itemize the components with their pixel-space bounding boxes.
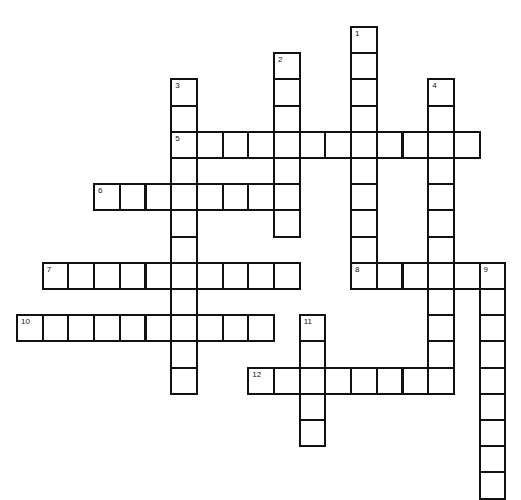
- crossword-cell[interactable]: [93, 314, 121, 342]
- crossword-cell[interactable]: [479, 340, 507, 368]
- crossword-cell[interactable]: 11: [299, 314, 327, 342]
- crossword-cell[interactable]: [170, 236, 198, 264]
- crossword-cell[interactable]: [247, 314, 275, 342]
- crossword-cell[interactable]: [196, 314, 224, 342]
- crossword-cell[interactable]: [479, 471, 507, 499]
- crossword-cell[interactable]: [376, 262, 404, 290]
- crossword-cell[interactable]: [479, 445, 507, 473]
- crossword-cell[interactable]: [479, 419, 507, 447]
- crossword-cell[interactable]: [427, 367, 455, 395]
- crossword-cell[interactable]: [42, 314, 70, 342]
- crossword-cell[interactable]: [402, 367, 430, 395]
- crossword-cell[interactable]: [273, 183, 301, 211]
- crossword-cell[interactable]: [479, 314, 507, 342]
- crossword-cell[interactable]: [427, 262, 455, 290]
- crossword-cell[interactable]: [350, 131, 378, 159]
- crossword-cell[interactable]: [376, 131, 404, 159]
- crossword-cell[interactable]: 3: [170, 78, 198, 106]
- crossword-cell[interactable]: 1: [350, 26, 378, 54]
- crossword-cell[interactable]: [427, 131, 455, 159]
- crossword-cell[interactable]: [376, 367, 404, 395]
- crossword-cell[interactable]: [170, 183, 198, 211]
- crossword-cell[interactable]: [453, 262, 481, 290]
- clue-number: 8: [355, 265, 359, 274]
- crossword-cell[interactable]: [427, 183, 455, 211]
- crossword-cell[interactable]: [273, 262, 301, 290]
- crossword-cell[interactable]: [427, 105, 455, 133]
- crossword-cell[interactable]: [273, 367, 301, 395]
- crossword-cell[interactable]: [222, 262, 250, 290]
- crossword-cell[interactable]: [67, 314, 95, 342]
- crossword-cell[interactable]: [170, 157, 198, 185]
- crossword-cell[interactable]: [273, 157, 301, 185]
- crossword-cell[interactable]: [299, 367, 327, 395]
- crossword-cell[interactable]: [119, 314, 147, 342]
- crossword-cell[interactable]: [350, 78, 378, 106]
- crossword-cell[interactable]: [145, 183, 173, 211]
- crossword-cell[interactable]: [170, 209, 198, 237]
- crossword-cell[interactable]: [170, 314, 198, 342]
- crossword-cell[interactable]: [196, 183, 224, 211]
- crossword-cell[interactable]: [350, 183, 378, 211]
- crossword-cell[interactable]: [222, 314, 250, 342]
- crossword-cell[interactable]: 4: [427, 78, 455, 106]
- crossword-cell[interactable]: [222, 183, 250, 211]
- crossword-cell[interactable]: [119, 183, 147, 211]
- crossword-cell[interactable]: [427, 314, 455, 342]
- crossword-cell[interactable]: [350, 105, 378, 133]
- crossword-cell[interactable]: 7: [42, 262, 70, 290]
- crossword-cell[interactable]: [350, 236, 378, 264]
- crossword-cell[interactable]: [273, 209, 301, 237]
- crossword-cell[interactable]: [427, 157, 455, 185]
- crossword-cell[interactable]: [427, 288, 455, 316]
- crossword-cell[interactable]: [299, 419, 327, 447]
- crossword-cell[interactable]: 9: [479, 262, 507, 290]
- crossword-cell[interactable]: [427, 209, 455, 237]
- crossword-cell[interactable]: 10: [16, 314, 44, 342]
- crossword-cell[interactable]: 5: [170, 131, 198, 159]
- crossword-cell[interactable]: [324, 131, 352, 159]
- crossword-cell[interactable]: [453, 131, 481, 159]
- crossword-cell[interactable]: [350, 209, 378, 237]
- crossword-cell[interactable]: [402, 131, 430, 159]
- crossword-cell[interactable]: [324, 367, 352, 395]
- clue-number: 6: [98, 186, 102, 195]
- crossword-cell[interactable]: [170, 340, 198, 368]
- crossword-cell[interactable]: [273, 105, 301, 133]
- crossword-cell[interactable]: [427, 340, 455, 368]
- crossword-cell[interactable]: [67, 262, 95, 290]
- crossword-cell[interactable]: [170, 367, 198, 395]
- crossword-cell[interactable]: [145, 314, 173, 342]
- crossword-cell[interactable]: 8: [350, 262, 378, 290]
- crossword-cell[interactable]: [299, 393, 327, 421]
- crossword-cell[interactable]: [299, 131, 327, 159]
- crossword-cell[interactable]: 6: [93, 183, 121, 211]
- crossword-cell[interactable]: [247, 183, 275, 211]
- crossword-cell[interactable]: [479, 393, 507, 421]
- crossword-cell[interactable]: [170, 288, 198, 316]
- crossword-cell[interactable]: [170, 262, 198, 290]
- crossword-cell[interactable]: [170, 105, 198, 133]
- crossword-cell[interactable]: [119, 262, 147, 290]
- crossword-cell[interactable]: [145, 262, 173, 290]
- crossword-cell[interactable]: 2: [273, 52, 301, 80]
- crossword-cell[interactable]: [273, 131, 301, 159]
- clue-number: 12: [252, 370, 261, 379]
- crossword-cell[interactable]: [247, 131, 275, 159]
- crossword-cell[interactable]: [247, 262, 275, 290]
- crossword-cell[interactable]: [196, 131, 224, 159]
- crossword-cell[interactable]: [402, 262, 430, 290]
- crossword-cell[interactable]: [427, 236, 455, 264]
- crossword-cell[interactable]: [479, 367, 507, 395]
- crossword-cell[interactable]: [273, 78, 301, 106]
- crossword-cell[interactable]: 12: [247, 367, 275, 395]
- crossword-cell[interactable]: [93, 262, 121, 290]
- crossword-cell[interactable]: [350, 52, 378, 80]
- crossword-cell[interactable]: [350, 367, 378, 395]
- crossword-cell[interactable]: [350, 157, 378, 185]
- crossword-cell[interactable]: [196, 262, 224, 290]
- clue-number: 7: [47, 265, 51, 274]
- crossword-cell[interactable]: [222, 131, 250, 159]
- crossword-cell[interactable]: [299, 340, 327, 368]
- crossword-cell[interactable]: [479, 288, 507, 316]
